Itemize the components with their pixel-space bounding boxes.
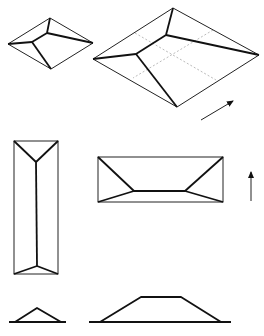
ridge-line (36, 141, 58, 162)
ridge-line (136, 54, 177, 107)
ridge-line (14, 141, 36, 162)
ridge-line (37, 266, 58, 274)
ridge-line (185, 157, 223, 191)
small-elevation (9, 308, 66, 322)
ridge-line (36, 162, 37, 266)
ridge-line (166, 35, 259, 55)
roof-profile (100, 297, 221, 322)
large-elevation (89, 297, 231, 322)
ridge-line (32, 33, 47, 42)
arrow-up-right-icon (201, 101, 233, 120)
ridge-line (32, 42, 51, 69)
ridge-line (14, 266, 37, 274)
roof-profile (15, 308, 61, 322)
roof-diagram (0, 0, 264, 336)
roof-outline (93, 8, 259, 107)
plan-outline (98, 157, 223, 202)
small-isometric-roof (8, 18, 93, 69)
ridge-line (98, 157, 134, 191)
wide-plan-roof (98, 157, 223, 202)
ridge-line (136, 35, 166, 54)
ridge-line (98, 191, 134, 202)
large-isometric-roof (93, 8, 259, 107)
ridge-line (47, 18, 50, 33)
arrow-shaft (201, 101, 233, 120)
guide-line (135, 33, 216, 80)
tall-plan-roof (14, 141, 58, 274)
ridge-line (47, 33, 93, 43)
ridge-line (185, 191, 223, 202)
